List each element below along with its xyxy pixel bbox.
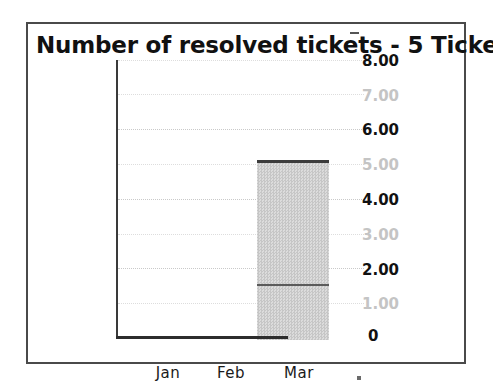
chart-frame: Number of resolved tickets - 5 Ticket(s)… [26, 22, 466, 364]
gridline-7 [118, 94, 364, 96]
y-tick-label-6: 6.00 [362, 121, 424, 139]
y-tick-label-2: 2.00 [362, 261, 424, 279]
x-axis-line [116, 336, 288, 339]
y-tick-label-3: 3.00 [362, 226, 424, 244]
bar-mar[interactable] [257, 160, 329, 340]
x-tick-label-feb: Feb [196, 364, 266, 382]
x-tick-label-jan: Jan [133, 364, 203, 382]
gridline-6 [118, 129, 364, 131]
y-tick-label-1: 1.00 [362, 295, 424, 313]
bar-inner-rule [257, 284, 329, 286]
scan-artifact-dash [350, 32, 359, 34]
y-tick-label-8: 8.00 [362, 52, 424, 70]
x-tick-label-mar: Mar [264, 364, 334, 382]
y-tick-label-4: 4.00 [362, 191, 424, 209]
plot-area [116, 60, 364, 360]
scan-artifact-speck [357, 376, 361, 380]
y-axis-line [116, 60, 118, 338]
gridline-8 [118, 60, 364, 62]
y-tick-label-7: 7.00 [362, 87, 424, 105]
y-tick-label-5: 5.00 [362, 156, 424, 174]
y-tick-label-0: 0 [368, 327, 430, 345]
